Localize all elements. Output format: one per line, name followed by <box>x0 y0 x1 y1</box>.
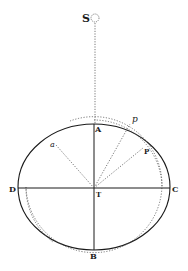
label-S: S <box>82 12 90 25</box>
label-D: D <box>9 184 16 194</box>
sun-circle <box>91 14 99 22</box>
label-P: P <box>144 147 150 156</box>
label-B: B <box>90 251 97 261</box>
label-C: C <box>172 184 178 194</box>
label-a: a <box>50 140 55 149</box>
label-p: p <box>132 114 138 124</box>
label-A: A <box>94 124 102 134</box>
line-T-a <box>56 145 94 188</box>
label-T: T <box>96 190 102 199</box>
line-T-P <box>94 148 143 188</box>
orbit-diagram: S A B C D T P p a <box>0 0 188 271</box>
